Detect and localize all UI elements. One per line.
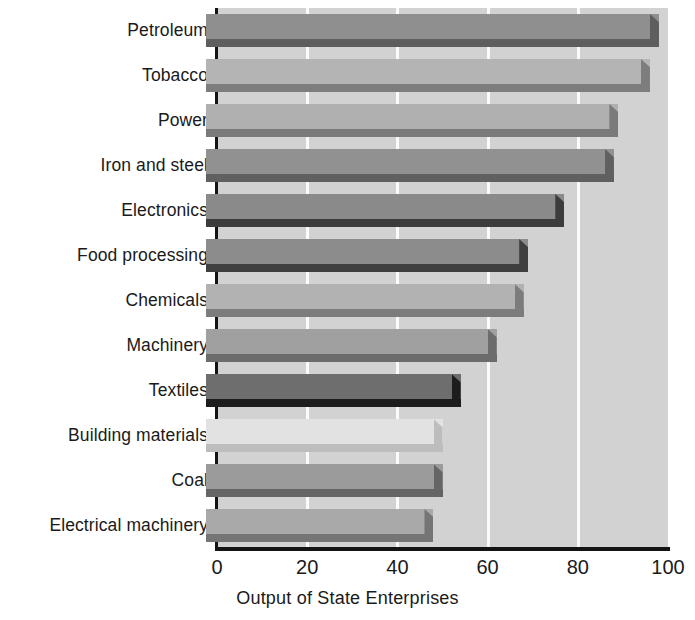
category-label: Textiles bbox=[0, 381, 208, 400]
bar-shadow bbox=[206, 399, 461, 407]
x-tick-label-100: 100 bbox=[651, 555, 684, 579]
bar-row: Petroleum bbox=[0, 8, 695, 53]
bar-shadow bbox=[206, 489, 443, 497]
bar-face bbox=[206, 374, 461, 399]
bar-face bbox=[206, 149, 614, 174]
bar-row: Textiles bbox=[0, 368, 695, 413]
bar-row: Tobacco bbox=[0, 53, 695, 98]
bar-shadow bbox=[206, 39, 659, 47]
bar-face bbox=[206, 104, 618, 129]
bar-row: Electrical machinery bbox=[0, 503, 695, 548]
bar-face bbox=[206, 194, 564, 219]
category-label: Tobacco bbox=[0, 66, 208, 85]
bar-shadow bbox=[206, 354, 497, 362]
category-label: Petroleum bbox=[0, 21, 208, 40]
category-label: Iron and steel bbox=[0, 156, 208, 175]
bar-shadow bbox=[206, 84, 650, 92]
bar[interactable] bbox=[206, 59, 650, 92]
bar-row: Power bbox=[0, 98, 695, 143]
x-axis-tick-labels: 020406080100 bbox=[0, 555, 695, 585]
bar[interactable] bbox=[206, 284, 524, 317]
bar-shadow bbox=[206, 534, 433, 542]
bar-shadow bbox=[206, 264, 528, 272]
bar[interactable] bbox=[206, 374, 461, 407]
bar-row: Coal bbox=[0, 458, 695, 503]
bar-face bbox=[206, 284, 524, 309]
bar[interactable] bbox=[206, 464, 443, 497]
bar-row: Electronics bbox=[0, 188, 695, 233]
bar-face bbox=[206, 59, 650, 84]
bar-row: Chemicals bbox=[0, 278, 695, 323]
x-tick-label-40: 40 bbox=[386, 555, 408, 579]
bar-row: Iron and steel bbox=[0, 143, 695, 188]
bar-face bbox=[206, 329, 497, 354]
bar[interactable] bbox=[206, 14, 659, 47]
bar-row: Machinery bbox=[0, 323, 695, 368]
bar[interactable] bbox=[206, 509, 433, 542]
category-label: Machinery bbox=[0, 336, 208, 355]
bar[interactable] bbox=[206, 419, 443, 452]
bar-row: Building materials bbox=[0, 413, 695, 458]
bar-row: Food processing bbox=[0, 233, 695, 278]
bar-face bbox=[206, 14, 659, 39]
bar-shadow bbox=[206, 444, 443, 452]
category-label: Electronics bbox=[0, 201, 208, 220]
x-tick-label-60: 60 bbox=[476, 555, 498, 579]
category-label: Building materials bbox=[0, 426, 208, 445]
x-axis-title: Output of State Enterprises bbox=[0, 588, 695, 609]
bar-face bbox=[206, 419, 443, 444]
bar-shadow bbox=[206, 174, 614, 182]
bar-face bbox=[206, 509, 433, 534]
x-tick-label-80: 80 bbox=[567, 555, 589, 579]
category-label: Power bbox=[0, 111, 208, 130]
x-tick-label-20: 20 bbox=[296, 555, 318, 579]
bar-chart: PetroleumTobaccoPowerIron and steelElect… bbox=[0, 0, 695, 620]
category-label: Food processing bbox=[0, 246, 208, 265]
bar-face bbox=[206, 239, 528, 264]
category-label: Electrical machinery bbox=[0, 516, 208, 535]
bar-shadow bbox=[206, 309, 524, 317]
bar-shadow bbox=[206, 219, 564, 227]
bar[interactable] bbox=[206, 194, 564, 227]
category-label: Coal bbox=[0, 471, 208, 490]
bar-shadow bbox=[206, 129, 618, 137]
bar[interactable] bbox=[206, 149, 614, 182]
bar[interactable] bbox=[206, 104, 618, 137]
x-tick-label-0: 0 bbox=[211, 555, 222, 579]
category-label: Chemicals bbox=[0, 291, 208, 310]
bar[interactable] bbox=[206, 239, 528, 272]
bar-face bbox=[206, 464, 443, 489]
bar[interactable] bbox=[206, 329, 497, 362]
